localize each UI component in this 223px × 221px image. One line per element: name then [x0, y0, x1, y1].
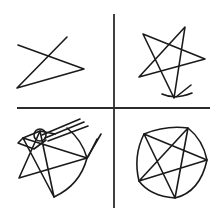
drawing-canvas: [0, 0, 223, 221]
drawn-stroke: [19, 131, 87, 197]
panels-group: [17, 27, 207, 198]
figure-svg: [0, 0, 223, 221]
drawn-stroke: [139, 128, 207, 198]
drawn-stroke: [139, 27, 205, 98]
panel-bottom-left: [18, 119, 101, 197]
drawn-stroke: [88, 139, 97, 157]
panel-top-left: [17, 37, 84, 88]
panel-bottom-right: [137, 127, 207, 198]
drawn-stroke: [17, 37, 84, 88]
drawn-stroke: [42, 119, 80, 135]
panel-top-right: [139, 27, 205, 98]
